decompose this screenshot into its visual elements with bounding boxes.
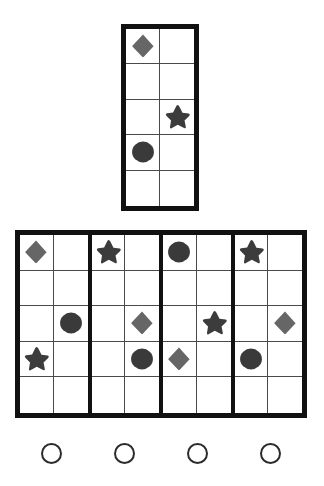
answer-option-1[interactable] <box>20 235 92 413</box>
option3-cell-r2c1 <box>163 271 197 307</box>
cell-content <box>20 342 53 377</box>
cell-content <box>160 29 194 63</box>
option1-cell-r2c1 <box>20 271 54 307</box>
cell-content <box>92 377 125 413</box>
cell-content <box>92 342 125 377</box>
option3-cell-r2c2 <box>197 271 231 307</box>
cell-content <box>235 377 268 413</box>
answer-options-panel <box>15 230 307 418</box>
option4-cell-r1c1 <box>235 235 269 271</box>
cell-content <box>235 271 268 306</box>
option1-cell-r5c2 <box>54 377 88 413</box>
diamond-icon <box>129 310 155 336</box>
option2-cell-r4c1 <box>92 342 126 378</box>
cell-content <box>125 342 159 377</box>
option1-cell-r3c2 <box>54 306 88 342</box>
option4-cell-r1c2 <box>268 235 302 271</box>
option1-cell-r5c1 <box>20 377 54 413</box>
circle-icon <box>166 239 192 265</box>
option2-cell-r5c2 <box>125 377 159 413</box>
option1-cell-r3c1 <box>20 306 54 342</box>
cell-content <box>126 100 159 134</box>
answer-option-4[interactable] <box>235 235 303 413</box>
answer-radio-3[interactable] <box>187 443 208 464</box>
answer-radio-4[interactable] <box>260 443 281 464</box>
answer-option-3[interactable] <box>163 235 235 413</box>
answer-choice-row <box>15 430 307 476</box>
cell-content <box>20 235 53 270</box>
answer-slot-2[interactable] <box>88 430 161 476</box>
diamond-icon <box>23 239 49 265</box>
cell-content <box>126 64 159 98</box>
answer-slot-3[interactable] <box>161 430 234 476</box>
diamond-icon <box>272 310 298 336</box>
option1-cell-r1c1 <box>20 235 54 271</box>
option4-cell-r5c1 <box>235 377 269 413</box>
option4-cell-r3c1 <box>235 306 269 342</box>
cell-content <box>235 235 268 270</box>
cell-content <box>125 271 159 306</box>
cell-content <box>197 271 231 306</box>
cell-content <box>92 271 125 306</box>
cell-content <box>163 342 196 377</box>
cell-content <box>163 271 196 306</box>
circle-icon <box>238 346 264 372</box>
circle-icon <box>58 310 84 336</box>
option3-cell-r5c2 <box>197 377 231 413</box>
question-cell-r4c2 <box>160 135 194 170</box>
question-matrix <box>121 24 199 211</box>
option2-cell-r2c1 <box>92 271 126 307</box>
answer-radio-2[interactable] <box>114 443 135 464</box>
cell-content <box>235 306 268 341</box>
star-icon <box>164 104 190 130</box>
cell-content <box>54 342 88 377</box>
cell-content <box>20 377 53 413</box>
cell-content <box>125 306 159 341</box>
cell-content <box>125 377 159 413</box>
answer-slot-4[interactable] <box>234 430 307 476</box>
cell-content <box>54 271 88 306</box>
option4-cell-r4c2 <box>268 342 302 378</box>
cell-content <box>160 100 194 134</box>
cell-content <box>197 235 231 270</box>
star-icon <box>95 239 121 265</box>
option3-cell-r1c1 <box>163 235 197 271</box>
option1-cell-r4c2 <box>54 342 88 378</box>
cell-content <box>160 171 194 206</box>
cell-content <box>197 377 231 413</box>
option1-cell-r1c2 <box>54 235 88 271</box>
cell-content <box>268 306 302 341</box>
cell-content <box>235 342 268 377</box>
cell-content <box>92 235 125 270</box>
circle-icon <box>129 346 155 372</box>
option3-cell-r3c1 <box>163 306 197 342</box>
option1-cell-r4c1 <box>20 342 54 378</box>
cell-content <box>126 171 159 206</box>
question-cell-r1c1 <box>126 29 160 64</box>
option4-cell-r3c2 <box>268 306 302 342</box>
question-cell-r4c1 <box>126 135 160 170</box>
option2-cell-r5c1 <box>92 377 126 413</box>
answer-option-2[interactable] <box>92 235 164 413</box>
cell-content <box>163 377 196 413</box>
star-icon <box>23 346 49 372</box>
cell-content <box>126 29 159 63</box>
question-cell-r2c1 <box>126 64 160 99</box>
option2-cell-r4c2 <box>125 342 159 378</box>
cell-content <box>197 306 231 341</box>
cell-content <box>126 135 159 169</box>
cell-content <box>268 271 302 306</box>
answer-radio-1[interactable] <box>41 443 62 464</box>
question-cell-r3c1 <box>126 100 160 135</box>
cell-content <box>268 377 302 413</box>
cell-content <box>163 306 196 341</box>
cell-content <box>160 64 194 98</box>
cell-content <box>163 235 196 270</box>
question-cell-r5c1 <box>126 171 160 206</box>
option1-cell-r2c2 <box>54 271 88 307</box>
cell-content <box>54 306 88 341</box>
option4-cell-r2c2 <box>268 271 302 307</box>
answer-slot-1[interactable] <box>15 430 88 476</box>
option2-cell-r2c2 <box>125 271 159 307</box>
cell-content <box>54 235 88 270</box>
